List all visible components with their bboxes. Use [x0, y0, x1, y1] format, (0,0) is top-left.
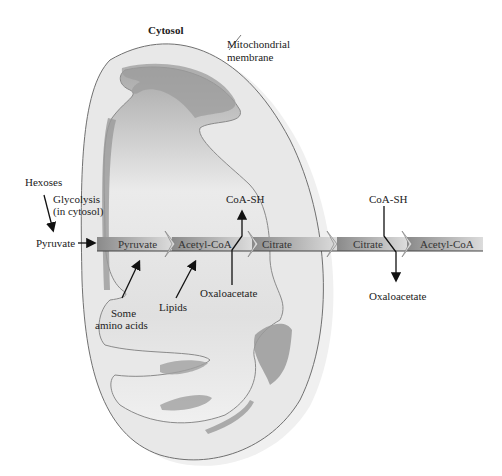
lipids-label: Lipids: [159, 301, 187, 314]
bar-segment-acetyl-coa-inside: Acetyl-CoA: [178, 238, 232, 250]
bar-segment-citrate-outside: Citrate: [353, 238, 383, 250]
membrane-label-line1: Mitochondrial: [227, 38, 290, 51]
bar-segment-acetyl-coa-outside: Acetyl-CoA: [420, 238, 474, 250]
bar-segment-pyruvate: Pyruvate: [118, 238, 157, 250]
hexoses-arrow: [44, 195, 53, 230]
bar-segment-citrate-inside: Citrate: [262, 238, 292, 250]
membrane-label-line2: membrane: [227, 51, 273, 64]
pyruvate-outside-label: Pyruvate: [36, 237, 75, 250]
coash-outside-label: CoA-SH: [369, 193, 408, 206]
coash-inside-label: CoA-SH: [226, 193, 265, 206]
cytosol-label: Cytosol: [148, 24, 183, 37]
glycolysis-label-line2: (in cytosol): [53, 205, 103, 218]
oxaloacetate-inside-label: Oxaloacetate: [200, 287, 257, 300]
hexoses-label: Hexoses: [25, 176, 62, 189]
amino-acids-label-line2: amino acids: [95, 319, 148, 332]
oxaloacetate-outside-label: Oxaloacetate: [369, 290, 426, 303]
